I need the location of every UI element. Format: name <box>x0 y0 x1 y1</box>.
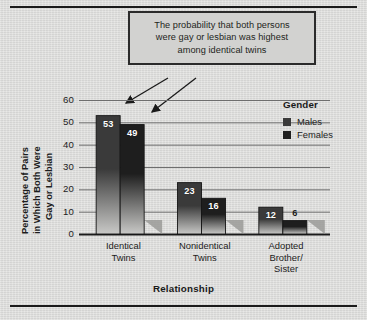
y-axis-title-line-1: Percentage of Pairs <box>20 147 31 234</box>
bar-males-1: 53 <box>96 116 120 234</box>
x-axis-tick-1: IdenticalTwins <box>78 240 168 263</box>
legend-swatch-icon <box>283 118 291 126</box>
x-axis-tick-line: Identical <box>78 240 168 252</box>
y-axis-tick-0: 0 <box>48 228 74 239</box>
y-axis-tick-50: 50 <box>48 116 74 127</box>
y-axis-tick-20: 20 <box>48 183 74 194</box>
x-axis-tick-2: NonidenticalTwins <box>160 240 250 263</box>
y-axis-tick-30: 30 <box>48 161 74 172</box>
bar-value-label: 49 <box>120 128 144 138</box>
bar-value-label: 53 <box>96 119 120 129</box>
legend-swatch-icon <box>283 131 291 139</box>
x-axis-tick-line: Nonidentical <box>160 240 250 252</box>
x-axis-tick-line: Brother/ <box>241 252 331 264</box>
legend-item-females: Females <box>283 129 333 140</box>
bar-females-2: 16 <box>201 198 225 234</box>
x-axis-tick-line: Twins <box>78 252 168 264</box>
legend-title: Gender <box>283 99 333 110</box>
x-axis-tick-line: Twins <box>160 252 250 264</box>
bar-value-label: 16 <box>201 201 225 211</box>
bar-females-3: 6 <box>283 221 307 234</box>
bar-value-label: 23 <box>177 186 201 196</box>
x-axis-title: Relationship <box>0 283 367 294</box>
x-axis-tick-line: Adopted <box>241 240 331 252</box>
legend: Gender MalesFemales <box>283 99 333 142</box>
legend-label: Females <box>297 129 333 140</box>
x-axis-tick-3: AdoptedBrother/Sister <box>241 240 331 275</box>
bar-males-2: 23 <box>177 183 201 234</box>
y-axis-title-line-2: in Which Both Were <box>32 146 43 234</box>
bar-value-label: 12 <box>259 210 283 220</box>
legend-item-males: Males <box>283 116 333 127</box>
x-axis-tick-line: Sister <box>241 263 331 275</box>
bar-males-3: 12 <box>259 207 283 234</box>
bar-value-label: 6 <box>283 208 307 218</box>
legend-label: Males <box>297 116 322 127</box>
y-axis-tick-10: 10 <box>48 206 74 217</box>
y-axis-tick-60: 60 <box>48 94 74 105</box>
y-axis-tick-40: 40 <box>48 139 74 150</box>
bar-females-1: 49 <box>120 125 144 234</box>
